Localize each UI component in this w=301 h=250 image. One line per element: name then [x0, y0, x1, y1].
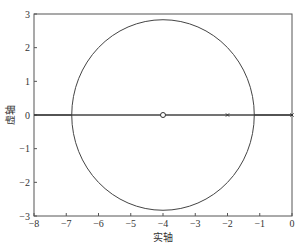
- x-tick-label: −3: [190, 218, 201, 229]
- x-tick-label: −8: [29, 218, 40, 229]
- y-axis-label: 虚轴: [4, 105, 16, 125]
- x-tick-label: −7: [61, 218, 72, 229]
- y-tick-label: −2: [19, 177, 30, 188]
- x-tick-label: −2: [222, 218, 233, 229]
- y-tick-label: −3: [19, 211, 30, 222]
- x-tick-label: −4: [158, 218, 169, 229]
- plot-area: [34, 20, 294, 211]
- y-tick-label: 1: [25, 76, 30, 87]
- x-axis-label: 实轴: [153, 231, 173, 243]
- y-tick-label: 2: [25, 42, 30, 53]
- x-tick-label: −5: [125, 218, 136, 229]
- x-tick-label: 0: [290, 218, 295, 229]
- zero-marker: [161, 113, 166, 118]
- y-tick-label: −1: [19, 143, 30, 154]
- y-tick-label: 3: [25, 9, 30, 20]
- x-tick-label: −1: [254, 218, 265, 229]
- x-axis-ticks: −8−7−6−5−4−3−2−10: [29, 213, 295, 229]
- root-locus-chart: −8−7−6−5−4−3−2−10 −3−2−10123 实轴 虚轴: [0, 0, 301, 250]
- y-tick-label: 0: [25, 110, 30, 121]
- x-tick-label: −6: [93, 218, 104, 229]
